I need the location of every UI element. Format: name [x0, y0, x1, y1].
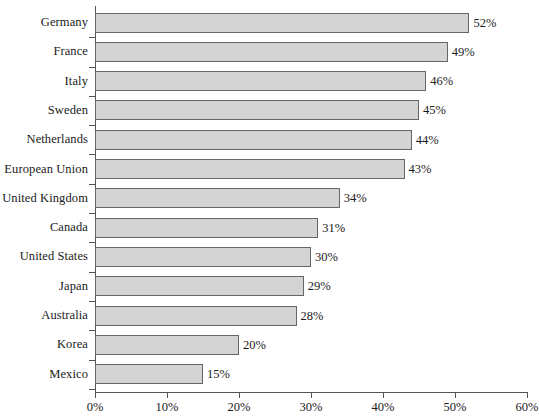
bar-value-label: 28% — [301, 306, 324, 326]
bar-row: Sweden45% — [0, 96, 539, 125]
x-axis-tick — [527, 392, 528, 398]
x-axis-tick — [167, 392, 168, 398]
bar-row: Netherlands44% — [0, 125, 539, 154]
bar — [95, 159, 405, 179]
bar — [95, 247, 311, 267]
category-label: Mexico — [49, 360, 88, 389]
category-label: Korea — [57, 330, 88, 359]
bar-container: 28% — [95, 306, 297, 326]
bar-value-label: 45% — [423, 100, 446, 120]
x-axis-tick-label: 20% — [228, 400, 251, 415]
bar-value-label: 43% — [409, 159, 432, 179]
bar-container: 46% — [95, 71, 426, 91]
bar-value-label: 30% — [315, 247, 338, 267]
bar — [95, 364, 203, 384]
bar-value-label: 15% — [207, 364, 230, 384]
bar — [95, 13, 469, 33]
bar-value-label: 20% — [243, 335, 266, 355]
category-label: United States — [20, 242, 88, 271]
x-axis-tick-label: 10% — [156, 400, 179, 415]
x-axis-tick — [383, 392, 384, 398]
bar-value-label: 52% — [473, 13, 496, 33]
category-label: European Union — [4, 155, 88, 184]
category-label: Sweden — [48, 96, 88, 125]
bar-value-label: 46% — [430, 71, 453, 91]
bar-row: France49% — [0, 37, 539, 66]
bar-container: 49% — [95, 42, 448, 62]
bar-value-label: 31% — [322, 218, 345, 238]
bar-row: Canada31% — [0, 213, 539, 242]
bar-row: Italy46% — [0, 67, 539, 96]
x-axis-tick-label: 30% — [300, 400, 323, 415]
bar-container: 30% — [95, 247, 311, 267]
x-axis-tick-label: 40% — [372, 400, 395, 415]
category-label: Netherlands — [27, 125, 89, 154]
bar-row: European Union43% — [0, 155, 539, 184]
bar-value-label: 49% — [452, 42, 475, 62]
category-label: Italy — [65, 67, 88, 96]
bar-container: 29% — [95, 276, 304, 296]
bar-row: United Kingdom34% — [0, 184, 539, 213]
x-axis-tick — [455, 392, 456, 398]
x-axis-tick-label: 50% — [444, 400, 467, 415]
bar-value-label: 34% — [344, 188, 367, 208]
bar-row: Korea20% — [0, 330, 539, 359]
bar-container: 15% — [95, 364, 203, 384]
bar — [95, 130, 412, 150]
bar-container: 43% — [95, 159, 405, 179]
bar-row: United States30% — [0, 242, 539, 271]
category-label: Australia — [41, 301, 88, 330]
bar-container: 44% — [95, 130, 412, 150]
bar-chart: Germany52%France49%Italy46%Sweden45%Neth… — [0, 0, 539, 419]
bar-container: 45% — [95, 100, 419, 120]
bar — [95, 188, 340, 208]
bar — [95, 218, 318, 238]
category-label: Japan — [59, 272, 88, 301]
bar — [95, 306, 297, 326]
x-axis-tick — [311, 392, 312, 398]
x-axis-tick — [239, 392, 240, 398]
x-axis-tick — [95, 392, 96, 398]
category-label: Canada — [50, 213, 88, 242]
bar — [95, 71, 426, 91]
y-axis-tick — [89, 389, 95, 390]
bar-container: 20% — [95, 335, 239, 355]
bar-container: 31% — [95, 218, 318, 238]
bar-row: Japan29% — [0, 272, 539, 301]
category-label: Germany — [41, 8, 88, 37]
bar — [95, 42, 448, 62]
bar-row: Australia28% — [0, 301, 539, 330]
bar-container: 52% — [95, 13, 469, 33]
bar-row: Mexico15% — [0, 360, 539, 389]
bar-container: 34% — [95, 188, 340, 208]
category-label: France — [53, 37, 88, 66]
bar — [95, 276, 304, 296]
bar-value-label: 29% — [308, 276, 331, 296]
x-axis-tick-label: 0% — [87, 400, 104, 415]
bar-value-label: 44% — [416, 130, 439, 150]
x-axis-tick-label: 60% — [516, 400, 539, 415]
category-label: United Kingdom — [2, 184, 88, 213]
bar-row: Germany52% — [0, 8, 539, 37]
bar — [95, 335, 239, 355]
bar — [95, 100, 419, 120]
